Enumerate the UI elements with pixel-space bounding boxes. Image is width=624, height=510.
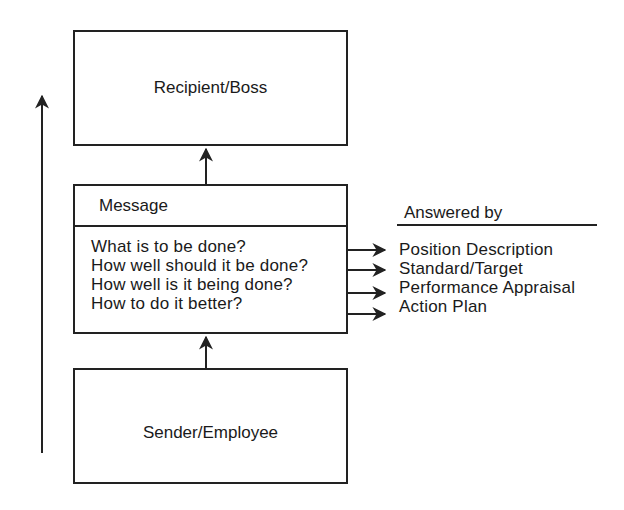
arrows-layer [0, 0, 624, 510]
arrow-question-answer-icon [348, 250, 385, 314]
